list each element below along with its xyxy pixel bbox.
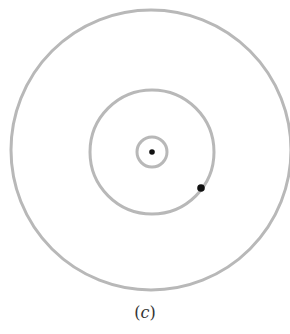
caption-close-paren: ) xyxy=(149,303,155,322)
orbit-dot xyxy=(197,184,205,192)
concentric-circles-diagram xyxy=(0,0,290,334)
center-dot xyxy=(149,149,155,155)
figure-caption: (c) xyxy=(0,303,290,322)
